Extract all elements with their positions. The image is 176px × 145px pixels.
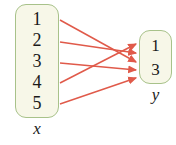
codomain-element-1: 1 (151, 37, 160, 54)
domain-element-1: 1 (33, 10, 42, 28)
arrow-from-5 (60, 78, 136, 104)
codomain-element-3: 3 (151, 61, 160, 78)
domain-element-5: 5 (33, 94, 42, 112)
arrow-from-4 (60, 44, 136, 83)
arrow-from-1 (60, 20, 136, 62)
domain-set-box: 1 2 3 4 5 (15, 4, 59, 118)
domain-element-4: 4 (33, 73, 42, 91)
domain-set-label: x (15, 119, 59, 139)
domain-element-3: 3 (33, 52, 42, 70)
function-mapping-diagram: 1 2 3 4 5 x 1 3 y (0, 0, 176, 145)
arrow-from-2 (60, 42, 136, 53)
domain-element-2: 2 (33, 31, 42, 49)
codomain-set-box: 1 3 (139, 30, 172, 84)
codomain-set-label: y (139, 85, 172, 105)
mapping-arrows (60, 20, 136, 104)
arrow-from-3 (60, 63, 136, 70)
